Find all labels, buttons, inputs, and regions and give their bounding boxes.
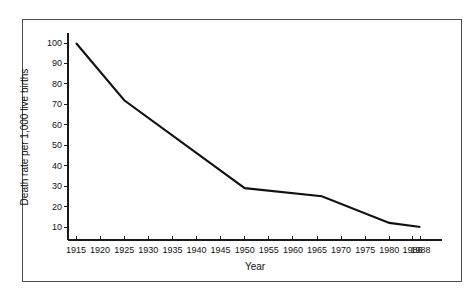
y-axis-tick-label: 70 — [30, 100, 62, 109]
y-axis-tick-label: 90 — [30, 59, 62, 68]
x-axis-tick-label: 1960 — [283, 246, 303, 255]
x-axis-tick-label: 1950 — [235, 246, 255, 255]
y-axis-tick-label: 30 — [30, 182, 62, 191]
data-series-line — [76, 43, 420, 227]
x-axis-tick-label: 1930 — [138, 246, 158, 255]
y-axis-tick-label: 80 — [30, 79, 62, 88]
y-axis-tick-label: 100 — [30, 39, 62, 48]
x-axis-tick-label: 1945 — [211, 246, 231, 255]
x-axis-tick-label: 1915 — [66, 246, 86, 255]
y-axis-tick-label: 60 — [30, 120, 62, 129]
chart-figure: 102030405060708090100 191519201925193019… — [0, 0, 474, 299]
y-axis-tick-label: 50 — [30, 141, 62, 150]
y-axis-tick-label: 10 — [30, 223, 62, 232]
x-axis-tick-label: 1935 — [162, 246, 182, 255]
x-axis-tick-label: 1975 — [355, 246, 375, 255]
y-axis-tick-group — [64, 43, 68, 227]
x-axis-tick-label: 1920 — [90, 246, 110, 255]
x-axis-tick-label: 1980 — [379, 246, 399, 255]
x-axis-tick-label: 1970 — [331, 246, 351, 255]
y-axis-tick-label: 20 — [30, 202, 62, 211]
y-axis-tick-label: 40 — [30, 161, 62, 170]
x-axis-tick-label: 1940 — [186, 246, 206, 255]
x-axis-tick-label: 1988 — [410, 246, 430, 255]
x-axis-tick-group — [76, 236, 420, 240]
x-axis-title: Year — [245, 262, 265, 272]
y-axis-title: Death rate per 1,000 live births — [20, 68, 30, 205]
x-axis-tick-label: 1955 — [259, 246, 279, 255]
x-axis-tick-label: 1965 — [307, 246, 327, 255]
x-axis-tick-label: 1925 — [114, 246, 134, 255]
